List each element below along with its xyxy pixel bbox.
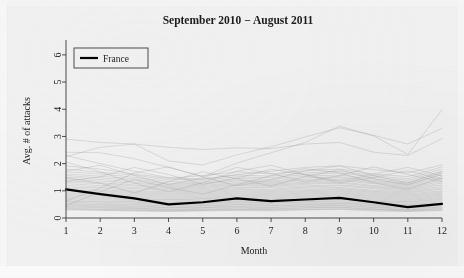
legend[interactable]: France (74, 48, 148, 68)
y-tick-label: 4 (52, 107, 63, 112)
y-tick-label: 2 (52, 161, 63, 166)
x-tick-label: 1 (64, 225, 69, 236)
x-tick-label: 12 (437, 225, 447, 236)
x-tick-label: 10 (369, 225, 379, 236)
y-tick-label: 6 (52, 52, 63, 57)
plot-panel-background (8, 6, 458, 266)
line-chart: September 2010 − August 2011 01234561234… (8, 6, 458, 266)
x-axis-title: Month (241, 245, 268, 256)
x-tick-label: 7 (269, 225, 274, 236)
x-tick-label: 3 (132, 225, 137, 236)
x-tick-label: 5 (200, 225, 205, 236)
legend-label-france: France (103, 54, 129, 64)
y-tick-label: 3 (52, 134, 63, 139)
scan-margin-bottom (0, 266, 464, 278)
y-tick-label: 0 (52, 216, 63, 221)
x-tick-label: 6 (234, 225, 239, 236)
x-tick-label: 4 (166, 225, 171, 236)
scan-margin-left (0, 0, 7, 278)
figure-page: September 2010 − August 2011 01234561234… (0, 0, 464, 278)
y-tick-label: 1 (52, 188, 63, 193)
y-axis-title: Avg. # of attacks (21, 97, 32, 165)
chart-figure: September 2010 − August 2011 01234561234… (8, 6, 458, 266)
x-tick-label: 9 (337, 225, 342, 236)
chart-title: September 2010 − August 2011 (163, 14, 314, 27)
x-tick-label: 8 (303, 225, 308, 236)
y-tick-label: 5 (52, 80, 63, 85)
x-tick-label: 2 (98, 225, 103, 236)
scan-margin-right (458, 0, 464, 278)
x-tick-label: 11 (403, 225, 413, 236)
